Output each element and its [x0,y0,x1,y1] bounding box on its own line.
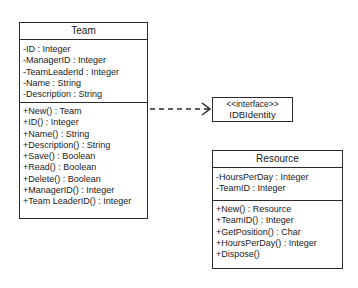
realization-arrow [0,0,358,288]
